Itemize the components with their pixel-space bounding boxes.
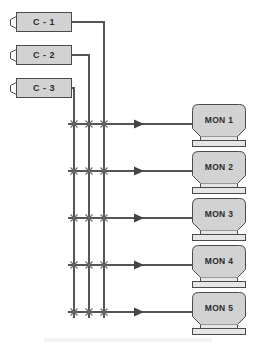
flow-arrow-icon xyxy=(134,261,144,270)
camera-label: C - 2 xyxy=(33,50,55,60)
camera-node-c3[interactable]: C - 3 xyxy=(16,78,72,98)
flow-arrow-icon xyxy=(134,214,144,223)
camera-icon xyxy=(10,82,17,95)
camera-label: C - 1 xyxy=(33,17,55,27)
diagram-canvas: C - 1 C - 2 C - 3 MON 1 MON 2 xyxy=(0,0,254,348)
monitor-node-mon1[interactable]: MON 1 xyxy=(192,104,246,148)
flow-arrow-icon xyxy=(134,308,144,317)
monitor-icon xyxy=(192,198,246,242)
monitor-node-mon5[interactable]: MON 5 xyxy=(192,292,246,336)
camera-node-c1[interactable]: C - 1 xyxy=(16,12,72,32)
monitor-icon xyxy=(192,245,246,289)
monitor-icon xyxy=(192,151,246,195)
camera-icon xyxy=(10,16,17,29)
camera-node-c2[interactable]: C - 2 xyxy=(16,45,72,65)
camera-icon xyxy=(10,49,17,62)
monitor-node-mon3[interactable]: MON 3 xyxy=(192,198,246,242)
monitor-icon xyxy=(192,292,246,336)
monitor-node-mon2[interactable]: MON 2 xyxy=(192,151,246,195)
monitor-icon xyxy=(192,104,246,148)
flow-arrow-icon xyxy=(134,167,144,176)
flow-arrow-icon xyxy=(134,120,144,129)
monitor-node-mon4[interactable]: MON 4 xyxy=(192,245,246,289)
camera-label: C - 3 xyxy=(33,83,55,93)
scan-artifact xyxy=(44,338,212,342)
